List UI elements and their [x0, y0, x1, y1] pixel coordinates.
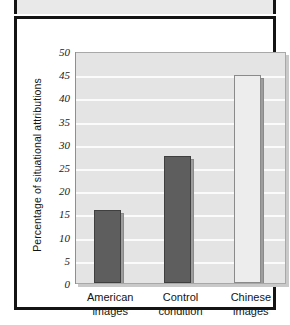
x-axis-category-label-line: Control — [145, 291, 215, 305]
x-axis-category-label-line: images — [75, 305, 145, 319]
y-axis-tick-label: 5 — [43, 255, 70, 266]
figure-root: Percentage of situational attributions 0… — [0, 0, 290, 325]
top-band — [14, 0, 276, 14]
y-axis-tick-label: 10 — [43, 232, 70, 243]
x-axis-category-label-line: images — [216, 305, 286, 319]
y-axis-tick-label: 30 — [43, 139, 70, 150]
x-axis-category-label: Controlcondition — [145, 291, 215, 319]
x-axis-category-label-line: Chinese — [216, 291, 286, 305]
bar-front-face — [94, 210, 121, 283]
figure-frame: Percentage of situational attributions 0… — [14, 16, 276, 310]
bar — [164, 156, 191, 283]
plot-area — [75, 52, 286, 284]
y-axis-tick-label: 15 — [43, 209, 70, 220]
y-axis-tick-label: 20 — [43, 186, 70, 197]
y-axis-line — [75, 52, 76, 284]
y-axis-title: Percentage of situational attributions — [31, 49, 43, 281]
x-axis-category-label: Americanimages — [75, 291, 145, 319]
y-axis-tick-label: 0 — [43, 279, 70, 290]
bar — [234, 75, 261, 283]
bar-front-face — [234, 75, 261, 283]
bar — [94, 210, 121, 283]
x-axis-category-label-line: condition — [145, 305, 215, 319]
bar-front-face — [164, 156, 191, 283]
x-axis-category-label-line: American — [75, 291, 145, 305]
y-axis-tick-label: 40 — [43, 93, 70, 104]
y-axis-tick-label: 45 — [43, 70, 70, 81]
y-axis-tick-label: 25 — [43, 163, 70, 174]
x-axis-category-label: Chineseimages — [216, 291, 286, 319]
y-axis-tick-label: 50 — [43, 47, 70, 58]
y-axis-tick-label: 35 — [43, 116, 70, 127]
